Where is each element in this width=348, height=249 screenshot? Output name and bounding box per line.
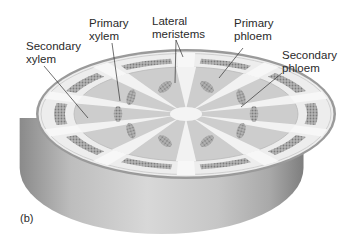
ray-extension: [177, 53, 195, 67]
primary-xylem-spot: [114, 106, 122, 122]
label-primary-phloem: Primary phloem: [234, 17, 274, 43]
pith: [170, 107, 202, 121]
panel-label: (b): [20, 212, 33, 225]
ray-extension: [177, 161, 195, 175]
label-lateral-meristems: Lateral meristems: [152, 15, 205, 41]
label-secondary-xylem: Secondary xylem: [26, 40, 81, 66]
label-secondary-phloem: Secondary phloem: [282, 49, 337, 75]
label-primary-xylem: Primary xylem: [89, 17, 129, 43]
primary-xylem-spot: [250, 106, 258, 122]
